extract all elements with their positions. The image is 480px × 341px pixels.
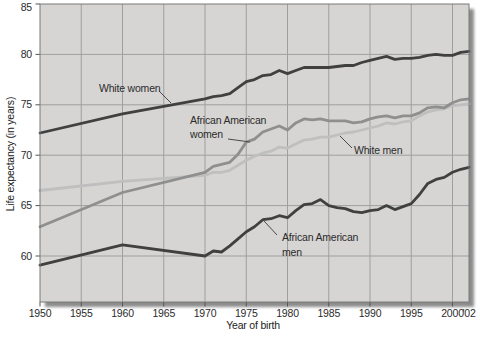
x-tick-label: 1960 [111,307,134,319]
series-label-white-men: White men [354,143,402,157]
x-tick-label: 1990 [359,307,382,319]
x-tick-label: 2000 [441,307,464,319]
y-tick-label: 65 [21,199,33,211]
y-tick-label: 85 [21,1,33,13]
x-tick-label: 1955 [70,307,93,319]
y-tick-label: 70 [21,149,33,161]
x-tick-label: 1975 [235,307,258,319]
x-tick-label: '02 [462,307,475,319]
y-tick-label: 60 [21,250,33,262]
series-label-african-american-men: African American men [282,230,358,259]
y-tick-label: 80 [21,48,33,60]
x-tick-label: 1980 [276,307,299,319]
x-axis-title: Year of birth [226,319,280,331]
x-tick-label: 1970 [194,307,217,319]
plot-area [40,4,469,302]
y-tick-label: 75 [21,98,33,110]
x-tick-label: 1995 [400,307,423,319]
y-axis-title: Life expectancy (in years) [4,97,16,211]
x-tick-label: 1965 [152,307,175,319]
x-tick-label: 1950 [29,307,52,319]
chart-canvas: 6065707580851950195519601965197019751980… [0,0,480,341]
life-expectancy-chart: 6065707580851950195519601965197019751980… [0,0,480,341]
series-label-african-american-women: African American women [190,113,266,141]
x-tick-label: 1985 [317,307,340,319]
series-label-white-women: White women [99,81,160,95]
